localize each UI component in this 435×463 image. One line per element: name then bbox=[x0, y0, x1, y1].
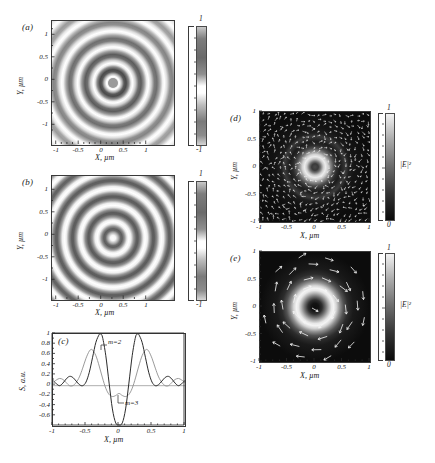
panel-b-colorbar-ticks bbox=[185, 175, 197, 305]
panel-a-xtick-0: -1 bbox=[45, 146, 67, 154]
panel-b-xtick-4: 1 bbox=[135, 301, 157, 309]
panel-a: (a) bbox=[0, 0, 230, 165]
panel-e-ylabel: Y, µm bbox=[230, 302, 239, 320]
panel-d-xtick-3: 0.5 bbox=[331, 223, 352, 231]
panel-e-plot bbox=[259, 251, 371, 363]
panel-b-ytick-0: 1 bbox=[26, 185, 48, 193]
panel-c-xtick-0: -1 bbox=[41, 427, 63, 435]
panel-d-ylabel: Y, µm bbox=[230, 162, 239, 180]
panel-c-xtick-4: 1 bbox=[173, 427, 195, 435]
panel-e-colorbar-max: 1 bbox=[387, 243, 391, 252]
panel-d-ytick-4: -1 bbox=[236, 217, 256, 225]
panel-b-ytick-4: -1 bbox=[26, 275, 48, 283]
panel-e-xtick-1: -0.5 bbox=[276, 363, 297, 371]
panel-e-xtick-3: 0.5 bbox=[331, 363, 352, 371]
panel-e-colorbar-ticks bbox=[375, 250, 385, 362]
panel-c-xtick-1: -0.5 bbox=[74, 427, 96, 435]
panel-d-ytick-2: 0 bbox=[236, 162, 256, 170]
panel-d-colorbar-min: 0 bbox=[387, 220, 391, 229]
panel-a-colorbar bbox=[196, 26, 207, 146]
panel-c-series-m2 bbox=[53, 334, 185, 425]
panel-c-ytick-5: 0 bbox=[26, 380, 50, 388]
panel-d-colorbar-title: |E|² bbox=[400, 160, 411, 169]
panel-e-ytick-1: 0.5 bbox=[234, 275, 256, 283]
panel-b-colorbar-min: -1 bbox=[196, 300, 202, 309]
panel-b-ytick-1: 0.5 bbox=[26, 208, 48, 216]
panel-e-xlabel: X, µm bbox=[300, 371, 319, 380]
panel-c-ytick-4: 0.2 bbox=[26, 370, 50, 378]
panel-d-plot bbox=[259, 111, 371, 223]
panel-b-xtick-0: -1 bbox=[45, 301, 67, 309]
panel-a-xtick-1: -0.5 bbox=[67, 146, 89, 154]
panel-b-image bbox=[52, 176, 174, 300]
panel-a-colorbar-max: 1 bbox=[199, 14, 203, 23]
panel-d-xtick-1: -0.5 bbox=[276, 223, 297, 231]
panel-b-plot bbox=[51, 175, 175, 301]
panel-c-ylabel: S, a.u. bbox=[18, 371, 27, 391]
panel-b-ylabel: Y, µm bbox=[16, 232, 25, 250]
panel-a-xtick-3: 0.5 bbox=[112, 146, 134, 154]
panel-d-ytick-1: 0.5 bbox=[234, 135, 256, 143]
panel-b-xtick-1: -0.5 bbox=[67, 301, 89, 309]
panel-e-xtick-2: 0 bbox=[304, 363, 324, 371]
panel-e-colorbar bbox=[385, 253, 395, 361]
panel-a-colorbar-min: -1 bbox=[196, 145, 202, 154]
panel-e-xtick-4: 1 bbox=[359, 363, 379, 371]
panel-c-ytick-2: 0.6 bbox=[26, 349, 50, 357]
panel-a-ytick-2: 0 bbox=[26, 75, 48, 83]
panel-d-ytick-0: 1 bbox=[236, 107, 256, 115]
panel-e: (e) bbox=[228, 245, 435, 395]
panel-a-colorbar-ticks bbox=[185, 20, 197, 150]
panel-c-ytick-7: -0.4 bbox=[26, 401, 50, 409]
panel-c-ytick-3: 0.4 bbox=[26, 360, 50, 368]
panel-d-ytick-3: -0.5 bbox=[234, 190, 256, 198]
panel-d-xtick-4: 1 bbox=[359, 223, 379, 231]
panel-c-ytick-6: -0.2 bbox=[26, 390, 50, 398]
panel-c-plot bbox=[52, 333, 186, 427]
panel-a-xtick-4: 1 bbox=[135, 146, 157, 154]
panel-e-ytick-2: 0 bbox=[236, 302, 256, 310]
panel-c-xlabel: X, µm bbox=[104, 435, 123, 444]
panel-d-xlabel: X, µm bbox=[300, 231, 319, 240]
panel-c-xtick-3: 0.5 bbox=[140, 427, 162, 435]
panel-a-image bbox=[52, 21, 174, 145]
panel-c-series-m3 bbox=[53, 349, 185, 396]
figure-canvas: (a) bbox=[0, 0, 435, 463]
panel-a-ylabel: Y, µm bbox=[16, 77, 25, 95]
panel-c-xtick-2: 0 bbox=[107, 427, 129, 435]
panel-a-ytick-0: 1 bbox=[26, 30, 48, 38]
panel-e-colorbar-min: 0 bbox=[387, 360, 391, 369]
panel-c-label-m3: m=3 bbox=[125, 399, 138, 407]
panel-b-colorbar-max: 1 bbox=[199, 169, 203, 178]
panel-a-ytick-1: 0.5 bbox=[26, 53, 48, 61]
panel-b-xlabel: X, µm bbox=[95, 308, 114, 317]
panel-d-colorbar-ticks bbox=[375, 110, 385, 222]
panel-b-xtick-3: 0.5 bbox=[112, 301, 134, 309]
panel-e-colorbar-title: |E|² bbox=[400, 300, 411, 309]
panel-c-ytick-0: 1 bbox=[26, 329, 50, 337]
panel-a-ytick-4: -1 bbox=[26, 120, 48, 128]
panel-c-curves bbox=[53, 334, 185, 426]
panel-e-ytick-3: -0.5 bbox=[234, 330, 256, 338]
panel-d-image bbox=[260, 112, 370, 222]
panel-a-ytick-3: -0.5 bbox=[26, 98, 48, 106]
panel-b-ytick-3: -0.5 bbox=[26, 253, 48, 261]
panel-d-colorbar bbox=[385, 113, 395, 221]
panel-b: (b) bbox=[0, 155, 230, 320]
panel-d-colorbar-max: 1 bbox=[387, 103, 391, 112]
panel-a-plot bbox=[51, 20, 175, 146]
panel-e-ytick-0: 1 bbox=[236, 247, 256, 255]
panel-c: (c) bbox=[0, 325, 230, 463]
panel-b-ytick-2: 0 bbox=[26, 230, 48, 238]
panel-c-label-m2: m=2 bbox=[108, 338, 121, 346]
panel-e-ytick-4: -1 bbox=[236, 357, 256, 365]
panel-c-ytick-1: 0.8 bbox=[26, 339, 50, 347]
panel-d: (d) bbox=[228, 105, 435, 255]
panel-e-image bbox=[260, 252, 370, 362]
panel-b-colorbar bbox=[196, 181, 207, 301]
panel-c-ytick-8: -0.6 bbox=[26, 411, 50, 419]
panel-d-xtick-2: 0 bbox=[304, 223, 324, 231]
panel-c-label: (c) bbox=[58, 336, 69, 346]
